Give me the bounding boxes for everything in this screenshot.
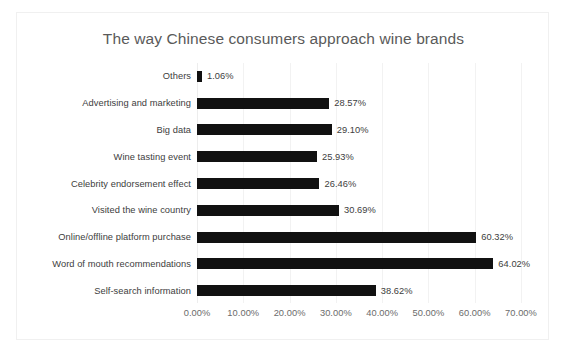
bar[interactable] bbox=[197, 178, 319, 189]
bar-row: Celebrity endorsement effect26.46% bbox=[17, 170, 550, 197]
bar-rows: Others1.06%Advertising and marketing28.5… bbox=[17, 63, 550, 304]
category-label: Self-search information bbox=[17, 286, 191, 296]
bar-value-label: 64.02% bbox=[498, 259, 530, 269]
bar-value-label: 1.06% bbox=[207, 71, 234, 81]
category-label: Word of mouth recommendations bbox=[17, 259, 191, 269]
bar-zone: 26.46% bbox=[197, 170, 550, 197]
bar[interactable] bbox=[197, 151, 317, 162]
category-label: Visited the wine country bbox=[17, 205, 191, 215]
bar[interactable] bbox=[197, 285, 376, 296]
bar-zone: 1.06% bbox=[197, 63, 550, 90]
bar[interactable] bbox=[197, 71, 202, 82]
bar[interactable] bbox=[197, 205, 339, 216]
bar-row: Self-search information38.62% bbox=[17, 277, 550, 304]
bar-zone: 29.10% bbox=[197, 117, 550, 144]
x-tick-label: 70.00% bbox=[505, 308, 537, 318]
chart-container: The way Chinese consumers approach wine … bbox=[16, 12, 549, 340]
category-label: Others bbox=[17, 71, 191, 81]
bar-value-label: 29.10% bbox=[337, 125, 369, 135]
bar-zone: 30.69% bbox=[197, 197, 550, 224]
chart-screenshot: The way Chinese consumers approach wine … bbox=[0, 0, 566, 349]
bar[interactable] bbox=[197, 98, 329, 109]
bar-zone: 64.02% bbox=[197, 251, 550, 278]
bar-row: Wine tasting event25.93% bbox=[17, 143, 550, 170]
bar-row: Advertising and marketing28.57% bbox=[17, 90, 550, 117]
bar-row: Others1.06% bbox=[17, 63, 550, 90]
x-axis-tick-labels: 0.00%10.00%20.00%30.00%40.00%50.00%60.00… bbox=[197, 308, 521, 324]
bar-zone: 25.93% bbox=[197, 143, 550, 170]
chart-title: The way Chinese consumers approach wine … bbox=[17, 30, 550, 48]
x-tick-label: 40.00% bbox=[366, 308, 398, 318]
bar-zone: 28.57% bbox=[197, 90, 550, 117]
bar-value-label: 60.32% bbox=[481, 232, 513, 242]
bar-value-label: 30.69% bbox=[344, 205, 376, 215]
category-label: Advertising and marketing bbox=[17, 98, 191, 108]
category-label: Celebrity endorsement effect bbox=[17, 179, 191, 189]
x-tick-label: 20.00% bbox=[274, 308, 306, 318]
x-tick-label: 10.00% bbox=[227, 308, 259, 318]
x-tick-label: 30.00% bbox=[320, 308, 352, 318]
bar-value-label: 38.62% bbox=[381, 286, 413, 296]
category-label: Online/offline platform purchase bbox=[17, 232, 191, 242]
bar-row: Big data29.10% bbox=[17, 117, 550, 144]
bar-row: Word of mouth recommendations64.02% bbox=[17, 251, 550, 278]
bar-row: Online/offline platform purchase60.32% bbox=[17, 224, 550, 251]
plot-area: Others1.06%Advertising and marketing28.5… bbox=[17, 63, 550, 321]
bar-zone: 60.32% bbox=[197, 224, 550, 251]
bar-value-label: 25.93% bbox=[322, 152, 354, 162]
bar[interactable] bbox=[197, 124, 332, 135]
bar[interactable] bbox=[197, 258, 493, 269]
bar-zone: 38.62% bbox=[197, 277, 550, 304]
category-label: Big data bbox=[17, 125, 191, 135]
bar-value-label: 26.46% bbox=[324, 179, 356, 189]
bar-value-label: 28.57% bbox=[334, 98, 366, 108]
bar[interactable] bbox=[197, 232, 476, 243]
bar-row: Visited the wine country30.69% bbox=[17, 197, 550, 224]
x-tick-label: 60.00% bbox=[459, 308, 491, 318]
x-tick-label: 0.00% bbox=[184, 308, 211, 318]
category-label: Wine tasting event bbox=[17, 152, 191, 162]
page-top-bleed bbox=[0, 0, 566, 9]
x-tick-label: 50.00% bbox=[413, 308, 445, 318]
